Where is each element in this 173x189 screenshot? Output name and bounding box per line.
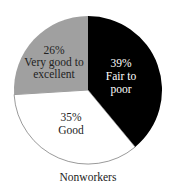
chart-caption: Nonworkers (60, 171, 117, 183)
label-good-line1: Good (58, 124, 84, 136)
label-vgood-line2: excellent (33, 68, 75, 80)
label-vgood-pct: 26% (43, 44, 65, 56)
label-fair-line1: Fair to (106, 70, 137, 82)
pie-chart: 26% Very good to excellent 39% Fair to p… (0, 0, 173, 189)
label-fair-line2: poor (110, 83, 131, 96)
label-fair-pct: 39% (110, 57, 132, 69)
label-good-pct: 35% (60, 111, 82, 123)
